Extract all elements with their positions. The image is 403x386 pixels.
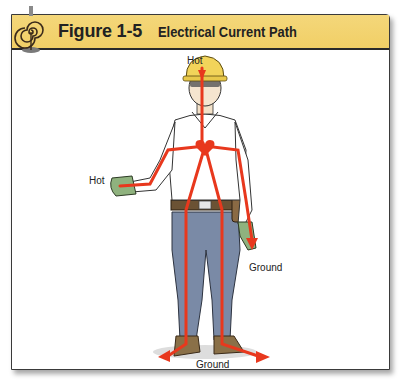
- label-hot-head: Hot: [187, 55, 203, 66]
- label-ground-feet: Ground: [196, 359, 229, 370]
- label-hot-hand: Hot: [89, 175, 105, 186]
- label-ground-hand: Ground: [249, 262, 282, 273]
- arrow-right-icon: [256, 351, 270, 363]
